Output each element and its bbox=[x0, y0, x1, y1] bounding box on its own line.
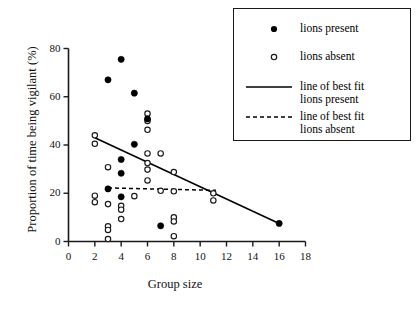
legend-entry-label-line2: lions present bbox=[300, 93, 358, 105]
data-point-lions-absent bbox=[132, 193, 137, 198]
data-point-lions-absent bbox=[158, 151, 163, 156]
legend-entry-label-line2: lions absent bbox=[300, 123, 355, 135]
data-point-lions-present bbox=[118, 194, 124, 200]
data-point-lions-absent bbox=[171, 233, 176, 238]
data-point-lions-absent bbox=[211, 198, 216, 203]
data-point-lions-absent bbox=[145, 160, 150, 165]
data-point-lions-absent bbox=[171, 219, 176, 224]
data-point-lions-absent bbox=[118, 216, 123, 221]
chart-legend: lions presentlions absentline of best fi… bbox=[233, 8, 411, 141]
data-point-lions-present bbox=[131, 90, 137, 96]
legend-filled-circle-icon bbox=[271, 26, 277, 32]
data-point-lions-absent bbox=[145, 151, 150, 156]
data-point-lions-absent bbox=[92, 193, 97, 198]
legend-entry-label: lions absent bbox=[300, 50, 355, 62]
data-point-lions-absent bbox=[92, 141, 97, 146]
data-point-lions-present bbox=[144, 116, 150, 122]
legend-entry-label: line of best fit bbox=[300, 110, 364, 122]
data-point-lions-present bbox=[118, 156, 124, 162]
data-point-lions-present bbox=[118, 170, 124, 176]
data-point-lions-present bbox=[158, 223, 164, 229]
data-point-lions-present bbox=[105, 77, 111, 83]
data-point-lions-absent bbox=[105, 236, 110, 241]
data-point-lions-present bbox=[131, 141, 137, 147]
y-axis-title: Proportion of time being vigilant (%) bbox=[25, 22, 40, 258]
data-point-lions-absent bbox=[145, 178, 150, 183]
legend-entry-label: lions present bbox=[300, 22, 358, 34]
data-point-lions-present bbox=[105, 186, 111, 192]
x-axis-title: Group size bbox=[110, 277, 240, 292]
data-point-lions-absent bbox=[145, 111, 150, 116]
data-point-lions-absent bbox=[118, 207, 123, 212]
data-point-lions-absent bbox=[92, 133, 97, 138]
data-point-lions-absent bbox=[145, 127, 150, 132]
data-point-lions-present bbox=[118, 56, 124, 62]
data-point-lions-absent bbox=[171, 169, 176, 174]
data-point-lions-present bbox=[276, 220, 282, 226]
legend-open-circle-icon bbox=[271, 54, 276, 59]
legend-entry-label: line of best fit bbox=[300, 80, 364, 92]
data-point-lions-absent bbox=[145, 167, 150, 172]
data-point-lions-absent bbox=[105, 201, 110, 206]
x-tick-label: 18 bbox=[286, 250, 326, 262]
data-point-lions-absent bbox=[158, 188, 163, 193]
data-point-lions-absent bbox=[105, 227, 110, 232]
data-point-lions-absent bbox=[92, 199, 97, 204]
data-point-lions-absent bbox=[171, 189, 176, 194]
data-point-lions-absent bbox=[105, 164, 110, 169]
data-point-lions-absent bbox=[211, 191, 216, 196]
